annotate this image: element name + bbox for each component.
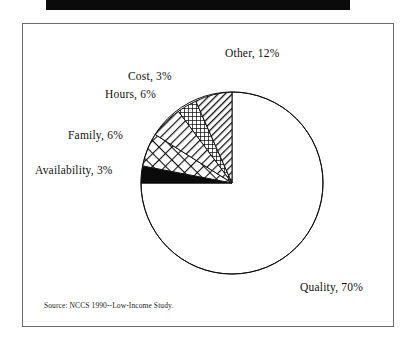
pie-label-availability: Availability, 3% (35, 164, 113, 176)
page-top-rule (46, 0, 350, 10)
pie-label-other: Other, 12% (225, 47, 280, 59)
pie-label-cost: Cost, 3% (128, 70, 172, 82)
pie-label-hours: Hours, 6% (105, 88, 156, 100)
pie-label-family: Family, 6% (68, 129, 123, 141)
pie-label-quality: Quality, 70% (300, 281, 363, 293)
source-note: Source: NCCS 1990--Low-Income Study. (44, 301, 173, 310)
